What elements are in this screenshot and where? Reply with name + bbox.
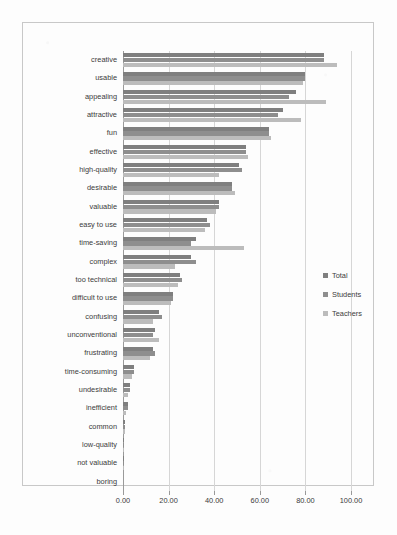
legend-item-teachers[interactable]: Teachers xyxy=(323,309,362,318)
category-label: creative xyxy=(33,56,123,63)
category-label: easy to use xyxy=(33,221,123,228)
legend-label: Teachers xyxy=(332,309,362,318)
bar-teachers xyxy=(123,100,326,104)
bar-total xyxy=(123,163,239,167)
category-label: time-consuming xyxy=(33,368,123,375)
category-label: too technical xyxy=(33,276,123,283)
bar-students xyxy=(123,150,246,154)
legend-swatch-icon xyxy=(323,273,328,278)
chart-frame: creativeusableappealingattractivefuneffe… xyxy=(22,22,374,486)
bar-row: time-saving xyxy=(123,234,351,252)
bar-students xyxy=(123,168,242,172)
bar-teachers xyxy=(123,173,219,177)
category-label: fun xyxy=(33,130,123,137)
category-label: desirable xyxy=(33,185,123,192)
bar-students xyxy=(123,278,182,282)
bar-students xyxy=(123,315,162,319)
x-tick-label: 0.00 xyxy=(116,496,130,505)
bar-teachers xyxy=(123,374,132,378)
bar-row: common xyxy=(123,418,351,436)
bar-row: fun xyxy=(123,124,351,142)
bar-row: boring xyxy=(123,473,351,491)
bar-teachers xyxy=(123,356,150,360)
bar-total xyxy=(123,273,180,277)
bar-row: too technical xyxy=(123,271,351,289)
bar-teachers xyxy=(123,81,303,85)
bar-row: confusing xyxy=(123,308,351,326)
bar-total xyxy=(123,402,128,406)
bar-teachers xyxy=(123,319,153,323)
bar-teachers xyxy=(123,264,175,268)
bar-students xyxy=(123,113,278,117)
category-label: confusing xyxy=(33,313,123,320)
x-tick xyxy=(260,491,261,495)
category-label: valuable xyxy=(33,203,123,210)
x-tick-label: 100.00 xyxy=(340,496,363,505)
bar-teachers xyxy=(123,448,124,452)
legend-swatch-icon xyxy=(323,311,328,316)
bar-students xyxy=(123,425,125,429)
bar-teachers xyxy=(123,393,128,397)
category-label: low-quality xyxy=(33,441,123,448)
bar-students xyxy=(123,186,232,190)
bar-row: valuable xyxy=(123,198,351,216)
x-tick xyxy=(351,491,352,495)
bar-students xyxy=(123,76,305,80)
category-label: inefficient xyxy=(33,405,123,412)
bar-students xyxy=(123,58,324,62)
bar-teachers xyxy=(123,338,159,342)
category-label: usable xyxy=(33,75,123,82)
bar-row: easy to use xyxy=(123,216,351,234)
bar-students xyxy=(123,443,124,447)
bar-teachers xyxy=(123,209,216,213)
bar-row: effective xyxy=(123,143,351,161)
x-tick xyxy=(305,491,306,495)
x-tick-label: 80.00 xyxy=(296,496,315,505)
bar-teachers xyxy=(123,118,301,122)
legend-label: Students xyxy=(332,290,361,299)
bar-teachers xyxy=(123,228,205,232)
bar-teachers xyxy=(123,411,126,415)
bar-students xyxy=(123,388,130,392)
bar-students xyxy=(123,223,210,227)
bar-teachers xyxy=(123,136,271,140)
bar-students xyxy=(123,370,134,374)
x-tick-label: 60.00 xyxy=(251,496,270,505)
bar-row: complex xyxy=(123,253,351,271)
bar-students xyxy=(123,260,196,264)
x-tick xyxy=(214,491,215,495)
legend-swatch-icon xyxy=(323,292,328,297)
bar-students xyxy=(123,296,173,300)
bar-students xyxy=(123,95,289,99)
bar-total xyxy=(123,310,159,314)
category-label: attractive xyxy=(33,111,123,118)
x-axis: 0.0020.0040.0060.0080.00100.00 xyxy=(123,491,351,511)
chart-legend: TotalStudentsTeachers xyxy=(323,271,362,328)
bar-row: high-quality xyxy=(123,161,351,179)
legend-item-total[interactable]: Total xyxy=(323,271,362,280)
bar-total xyxy=(123,108,283,112)
x-tick xyxy=(123,491,124,495)
x-tick xyxy=(169,491,170,495)
bar-row: frustrating xyxy=(123,344,351,362)
bar-total xyxy=(123,182,232,186)
bar-total xyxy=(123,145,246,149)
x-tick-label: 20.00 xyxy=(159,496,178,505)
bar-students xyxy=(123,461,124,465)
category-label: boring xyxy=(33,478,123,485)
bar-row: low-quality xyxy=(123,436,351,454)
bar-total xyxy=(123,438,124,442)
bar-rows: creativeusableappealingattractivefuneffe… xyxy=(123,51,351,491)
bar-total xyxy=(123,328,155,332)
legend-item-students[interactable]: Students xyxy=(323,290,362,299)
bar-row: appealing xyxy=(123,88,351,106)
category-label: frustrating xyxy=(33,350,123,357)
bar-row: time-consuming xyxy=(123,363,351,381)
bar-students xyxy=(123,241,191,245)
category-label: complex xyxy=(33,258,123,265)
category-label: common xyxy=(33,423,123,430)
bar-students xyxy=(123,351,155,355)
bar-students xyxy=(123,406,128,410)
bar-teachers xyxy=(123,301,171,305)
bar-teachers xyxy=(123,191,235,195)
